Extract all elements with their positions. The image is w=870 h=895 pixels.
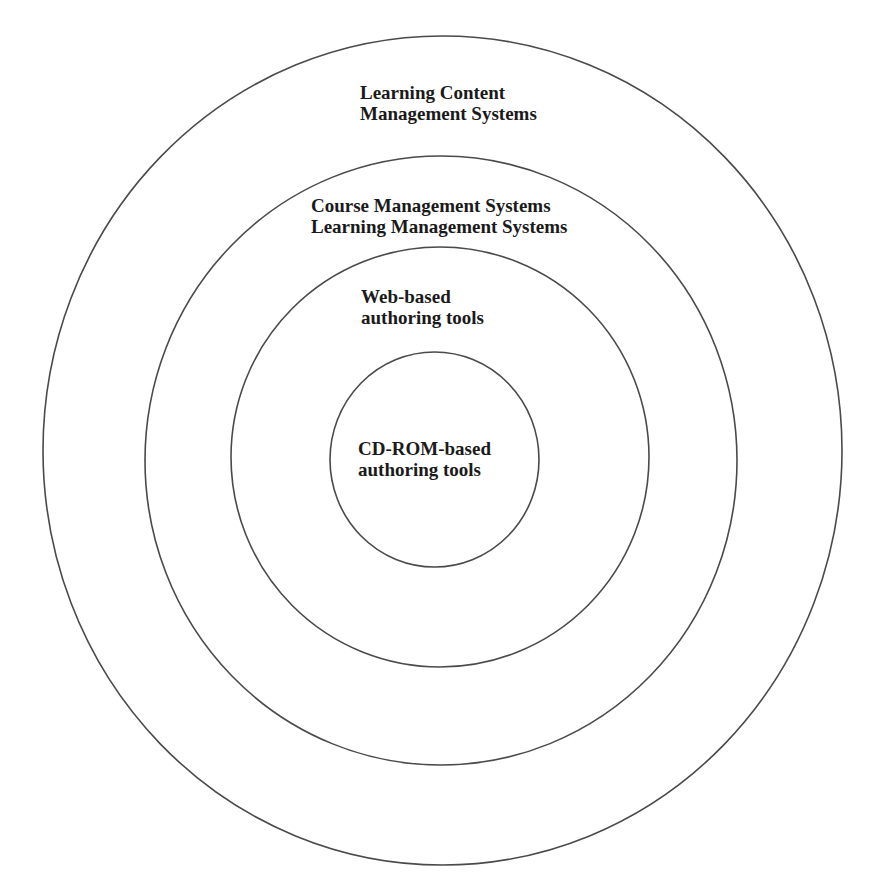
label-line: authoring tools: [358, 459, 491, 480]
label-line: Web-based: [361, 286, 484, 307]
label-line: Learning Content: [360, 82, 537, 103]
label-course-learning-management-systems: Course Management Systems Learning Manag…: [311, 195, 567, 237]
label-cd-rom-based-authoring-tools: CD-ROM-based authoring tools: [358, 438, 491, 480]
label-web-based-authoring-tools: Web-based authoring tools: [361, 286, 484, 328]
concentric-diagram: Learning Content Management Systems Cour…: [0, 0, 870, 895]
label-line: CD-ROM-based: [358, 438, 491, 459]
label-learning-content-management-systems: Learning Content Management Systems: [360, 82, 537, 124]
label-line: Learning Management Systems: [311, 216, 567, 237]
label-line: Course Management Systems: [311, 195, 567, 216]
label-line: Management Systems: [360, 103, 537, 124]
label-line: authoring tools: [361, 307, 484, 328]
